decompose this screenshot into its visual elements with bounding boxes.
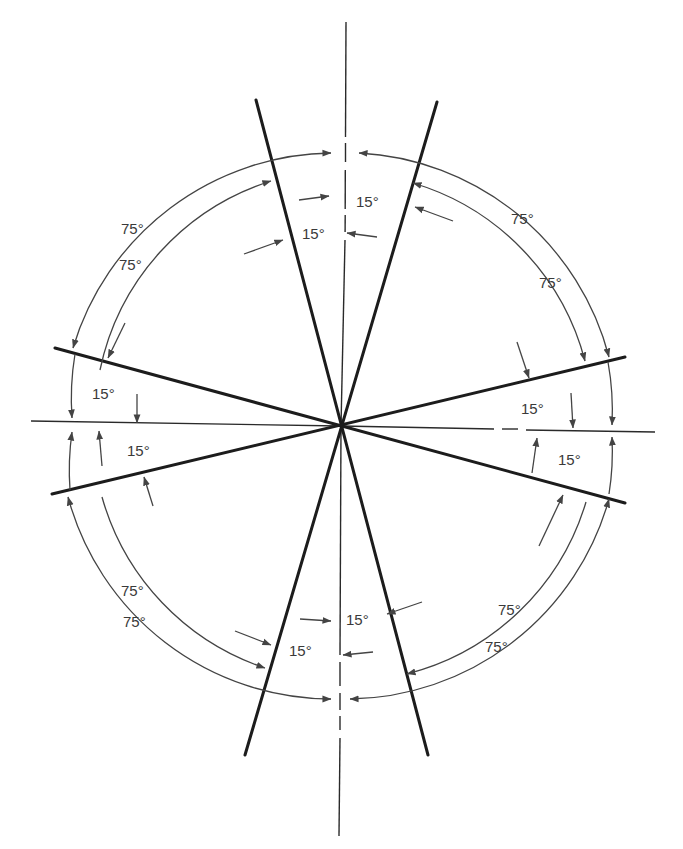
arc-left-15-outer-b [69,432,72,490]
label-bottom-15-a: 15° [346,611,369,628]
label-left-15-b: 15° [127,442,150,459]
arc-right-15-outer [608,362,612,425]
arc-top-right-outer [359,153,609,357]
arc-right-15-outer-b [609,437,612,494]
arc-top-left-outer [73,153,331,348]
label-bl-75-outer: 75° [121,582,144,599]
arc-top-right-inner [413,183,585,361]
label-top-15-b: 15° [302,225,325,242]
label-bl-75-inner: 75° [123,613,146,630]
label-right-15-a: 15° [521,400,544,417]
line-left-lower [52,357,625,494]
arc-top-left-inner [100,181,271,370]
label-tr-75-inner: 75° [539,274,562,291]
arc-bottom-right-outer [350,499,609,699]
label-tl-75-outer: 75° [121,220,144,237]
label-br-75-inner: 75° [485,638,508,655]
angle-diagram: 15° 15° 15° 15° 15° 15° 15° 15° 75° 75° … [0,0,683,849]
label-tr-75-outer: 75° [511,210,534,227]
arc-left-15-outer [71,354,75,418]
heavy-line-set [52,100,625,755]
label-tl-75-inner: 75° [119,256,142,273]
label-bottom-15-b: 15° [289,642,312,659]
label-br-75-outer: 75° [498,601,521,618]
label-right-15-b: 15° [558,451,581,468]
line-top-right [245,102,437,755]
label-top-15-a: 15° [356,193,379,210]
label-left-15-a: 15° [92,385,115,402]
